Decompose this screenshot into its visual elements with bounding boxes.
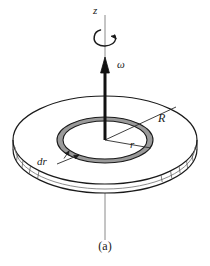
physics-figure: z ω R r dr (a) bbox=[0, 0, 210, 266]
z-axis-label: z bbox=[93, 5, 97, 16]
disk-diagram-svg bbox=[0, 0, 210, 266]
ring-width-label: dr bbox=[37, 156, 47, 167]
outer-radius-label: R bbox=[158, 112, 165, 124]
ring-radius-label: r bbox=[130, 139, 134, 150]
omega-label: ω bbox=[117, 59, 125, 70]
figure-caption: (a) bbox=[0, 239, 210, 254]
